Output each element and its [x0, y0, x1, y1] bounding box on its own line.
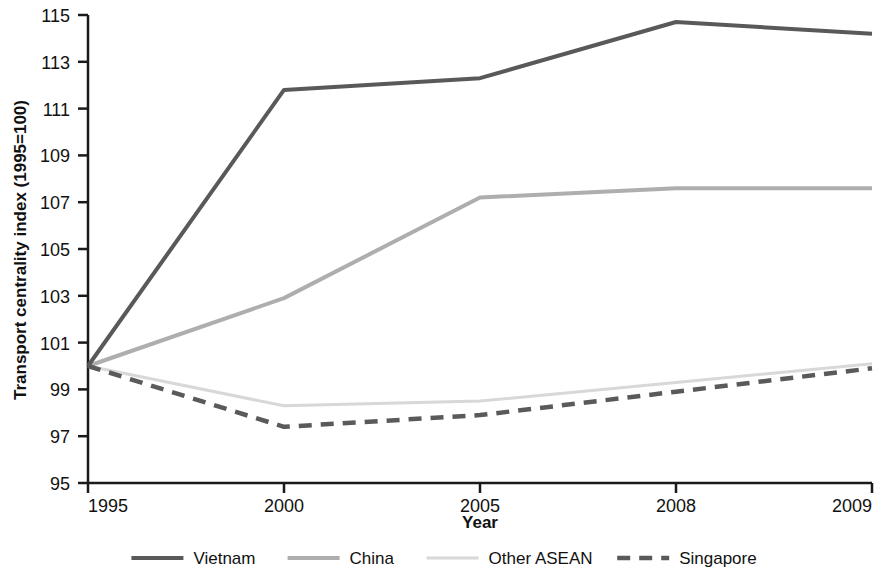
x-tick-label: 2008: [656, 496, 696, 516]
x-tick-label: 2000: [264, 496, 304, 516]
line-chart: Transport centrality index (1995=100) 95…: [0, 0, 892, 576]
chart-legend: VietnamChinaOther ASEANSingapore: [131, 549, 756, 568]
data-series-layer: [88, 22, 872, 427]
y-tick-label: 105: [40, 240, 70, 260]
y-tick-label: 99: [50, 380, 70, 400]
y-tick-label: 113: [41, 53, 70, 73]
x-tick-label: 2009: [832, 496, 872, 516]
chart-figure: Transport centrality index (1995=100) 95…: [0, 0, 892, 576]
y-tick-label: 103: [40, 287, 70, 307]
series-line-other-asean: [88, 364, 872, 406]
series-line-vietnam: [88, 22, 872, 366]
legend-label-other-asean: Other ASEAN: [489, 549, 593, 568]
series-line-china: [88, 188, 872, 366]
y-tick-label: 111: [43, 100, 70, 120]
legend-label-china: China: [350, 549, 395, 568]
y-tick-label: 109: [40, 146, 70, 166]
y-tick-label: 107: [40, 193, 70, 213]
y-tick-label: 101: [40, 334, 70, 354]
y-tick-label: 95: [50, 474, 70, 494]
y-axis-title: Transport centrality index (1995=100): [11, 100, 30, 400]
legend-label-singapore: Singapore: [679, 549, 757, 568]
y-tick-label: 115: [41, 6, 70, 26]
x-axis-ticks: 19952000200520082009: [88, 483, 872, 516]
y-tick-label: 97: [50, 427, 70, 447]
x-axis-title: Year: [462, 513, 498, 532]
legend-label-vietnam: Vietnam: [193, 549, 255, 568]
x-tick-label: 1995: [88, 496, 128, 516]
y-axis-ticks: 959799101103105107109111113115: [40, 6, 88, 494]
